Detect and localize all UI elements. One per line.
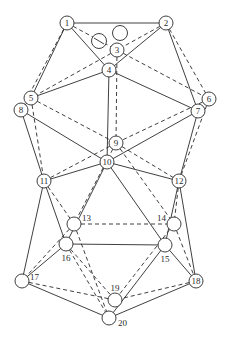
unlabeled-node xyxy=(113,26,128,41)
solid-edge-4-10 xyxy=(107,70,109,162)
node-circle xyxy=(15,274,29,288)
node-2: 2 xyxy=(159,16,173,30)
node-label: 14 xyxy=(157,213,167,223)
node-11: 11 xyxy=(37,174,51,188)
dashed-edge-1-3 xyxy=(67,23,117,50)
node-label: 2 xyxy=(164,18,169,28)
dashed-edge-9-12 xyxy=(116,143,179,181)
nodes-layer: 1234567891011121314151617181920 xyxy=(14,16,216,328)
node-label: 4 xyxy=(107,65,112,75)
node-label: 18 xyxy=(192,276,202,286)
node-label: 6 xyxy=(207,94,212,104)
node-label: 16 xyxy=(62,253,72,263)
solid-edge-7-12 xyxy=(179,111,198,181)
node-label: 19 xyxy=(111,283,121,293)
node-label: 17 xyxy=(30,272,40,282)
solid-edge-11-17 xyxy=(22,181,44,281)
node-6: 6 xyxy=(202,92,216,106)
dashed-edge-18-19 xyxy=(115,281,196,300)
dashed-edge-11-13 xyxy=(44,181,74,224)
node-19: 19 xyxy=(108,283,122,307)
node-circle xyxy=(113,26,128,41)
node-circle xyxy=(108,293,122,307)
node-label: 12 xyxy=(175,176,184,186)
node-14: 14 xyxy=(157,213,181,231)
node-3: 3 xyxy=(110,43,124,57)
solid-edge-10-15 xyxy=(107,162,165,245)
node-label: 8 xyxy=(19,105,24,115)
graph-diagram: 1234567891011121314151617181920 xyxy=(0,0,229,341)
solid-edge-17-20 xyxy=(22,281,109,318)
node-circle xyxy=(59,237,73,251)
node-12: 12 xyxy=(172,174,186,188)
solid-edge-2-7 xyxy=(166,23,198,111)
node-circle xyxy=(158,238,172,252)
solid-edge-4-7 xyxy=(109,70,198,111)
node-label: 13 xyxy=(82,213,92,223)
dashed-edge-13-20 xyxy=(74,224,109,318)
dashed-edge-17-19 xyxy=(22,281,115,300)
node-label: 5 xyxy=(29,93,34,103)
node-circle xyxy=(167,217,181,231)
node-5: 5 xyxy=(24,91,38,105)
node-circle xyxy=(67,217,81,231)
node-label: 7 xyxy=(196,106,201,116)
unlabeled-node xyxy=(92,34,107,49)
dashed-edge-5-9 xyxy=(31,98,116,143)
dashed-edge-9-14 xyxy=(116,143,174,224)
node-10: 10 xyxy=(100,155,114,169)
solid-edge-16-15 xyxy=(66,244,165,245)
node-label: 15 xyxy=(161,254,171,264)
solid-edge-10-11 xyxy=(44,162,107,181)
node-18: 18 xyxy=(189,274,203,288)
solid-edge-12-15 xyxy=(165,181,179,245)
node-13: 13 xyxy=(67,213,92,231)
node-label: 9 xyxy=(114,138,119,148)
dashed-edge-5-11 xyxy=(31,98,44,181)
dashed-edge-16-20 xyxy=(66,244,109,318)
solid-edge-11-16 xyxy=(44,181,66,244)
solid-edge-8-11 xyxy=(21,110,44,181)
node-label: 10 xyxy=(103,157,113,167)
solid-edge-7-10 xyxy=(107,111,198,162)
node-17: 17 xyxy=(15,272,40,288)
node-1: 1 xyxy=(60,16,74,30)
node-4: 4 xyxy=(102,63,116,77)
node-label: 1 xyxy=(65,18,70,28)
node-label: 3 xyxy=(115,45,120,55)
node-7: 7 xyxy=(191,104,205,118)
node-circle xyxy=(102,311,116,325)
node-20: 20 xyxy=(102,311,128,328)
dashed-edge-14-18 xyxy=(174,224,196,281)
node-9: 9 xyxy=(109,136,123,150)
node-8: 8 xyxy=(14,103,28,117)
node-label: 11 xyxy=(40,176,49,186)
solid-edge-12-18 xyxy=(179,181,196,281)
node-label: 20 xyxy=(118,318,128,328)
solid-edge-10-16 xyxy=(66,162,107,244)
